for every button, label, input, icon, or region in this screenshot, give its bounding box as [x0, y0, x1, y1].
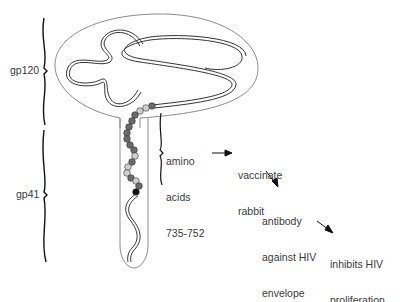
bead-chain [124, 103, 156, 196]
amino-acid-brace [160, 113, 163, 185]
antibody-label: antibody against HIV envelope [262, 191, 316, 302]
inhibits-hiv-label: inhibits HIV proliferation in cultured T… [330, 234, 388, 302]
protein-chain [66, 30, 246, 108]
gp41-brace [43, 130, 47, 262]
transmembrane-tail [126, 194, 140, 262]
gp120-label: gp120 [10, 64, 39, 76]
gp120-brace [43, 18, 47, 125]
gp41-label: gp41 [16, 188, 39, 200]
amino-acids-label: amino acids 735-752 [166, 131, 205, 251]
gp120-outline [55, 14, 258, 128]
